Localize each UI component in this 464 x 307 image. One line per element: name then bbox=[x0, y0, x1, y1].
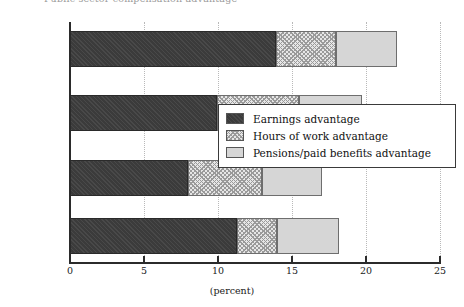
legend-item: Hours of work advantage bbox=[226, 127, 448, 144]
bar-segment bbox=[70, 218, 237, 254]
chart-title: Public sector compensation advantage bbox=[44, 0, 344, 4]
legend-swatch-hours-icon bbox=[226, 130, 244, 141]
x-tick-label: 20 bbox=[360, 265, 372, 276]
legend-label: Pensions/paid benefits advantage bbox=[253, 147, 431, 159]
x-tick-label: 15 bbox=[286, 265, 298, 276]
x-tick-mark bbox=[69, 256, 71, 263]
bar-segment bbox=[70, 31, 276, 67]
bar-segment bbox=[70, 95, 217, 131]
x-tick-mark bbox=[143, 256, 145, 263]
x-tick-mark bbox=[439, 256, 441, 263]
bar-segment bbox=[276, 31, 337, 67]
legend-label: Hours of work advantage bbox=[253, 130, 388, 142]
x-tick-mark bbox=[217, 256, 219, 263]
x-tick-label: 25 bbox=[434, 265, 446, 276]
legend-swatch-earnings-icon bbox=[226, 113, 244, 124]
legend-swatch-pensions-icon bbox=[226, 147, 244, 158]
legend-item: Pensions/paid benefits advantage bbox=[226, 144, 448, 161]
x-tick-mark bbox=[291, 256, 293, 263]
stacked-bar-chart: Public sector compensation advantage (pe… bbox=[0, 0, 464, 307]
bar-segment bbox=[277, 218, 339, 254]
bar-segment bbox=[237, 218, 277, 254]
legend-label: Earnings advantage bbox=[253, 113, 360, 125]
bar-row bbox=[70, 218, 440, 254]
bar-segment bbox=[336, 31, 397, 67]
bar-segment bbox=[70, 160, 188, 196]
x-tick-label: 0 bbox=[67, 265, 73, 276]
x-tick-label: 5 bbox=[141, 265, 147, 276]
x-tick-mark bbox=[365, 256, 367, 263]
legend-item: Earnings advantage bbox=[226, 110, 448, 127]
x-tick-label: 10 bbox=[212, 265, 224, 276]
chart-legend: Earnings advantage Hours of work advanta… bbox=[218, 104, 456, 168]
x-axis-line bbox=[69, 262, 441, 264]
x-axis-title: (percent) bbox=[0, 285, 464, 296]
bar-row bbox=[70, 31, 440, 67]
